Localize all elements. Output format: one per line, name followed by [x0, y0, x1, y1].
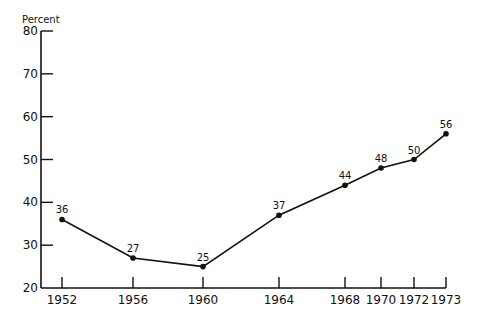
y-tick-label: 70	[23, 67, 38, 81]
line-chart: Percent 20304050607080 19521956196019641…	[0, 0, 482, 319]
data-label: 27	[127, 243, 140, 254]
x-axis: 19521956196019641968197019721973	[41, 277, 461, 307]
x-tick-label: 1952	[47, 293, 78, 307]
data-point	[378, 165, 384, 171]
y-tick-label: 30	[23, 238, 38, 252]
data-label: 37	[273, 200, 286, 211]
x-tick-label: 1964	[264, 293, 295, 307]
y-tick-label: 40	[23, 195, 38, 209]
x-tick-label: 1968	[330, 293, 361, 307]
data-point	[276, 212, 282, 218]
data-label: 48	[375, 153, 388, 164]
data-point	[342, 182, 348, 188]
x-tick-label: 1972	[399, 293, 430, 307]
x-tick-label: 1973	[431, 293, 462, 307]
data-label: 36	[56, 204, 69, 215]
x-tick-label: 1956	[118, 293, 149, 307]
series-line	[62, 134, 446, 267]
data-point	[200, 264, 206, 270]
data-label: 25	[197, 252, 210, 263]
y-axis: 20304050607080	[23, 24, 53, 295]
x-tick-label: 1970	[366, 293, 397, 307]
data-label: 50	[408, 145, 421, 156]
data-series: 3627253744485056	[56, 119, 453, 270]
y-tick-label: 80	[23, 24, 38, 38]
data-label: 44	[339, 170, 352, 181]
data-label: 56	[440, 119, 453, 130]
data-point	[130, 255, 136, 261]
y-tick-label: 50	[23, 153, 38, 167]
y-tick-label: 60	[23, 110, 38, 124]
x-tick-label: 1960	[188, 293, 219, 307]
data-point	[443, 131, 449, 137]
y-tick-label: 20	[23, 281, 38, 295]
data-point	[59, 217, 65, 223]
data-point	[411, 157, 417, 163]
